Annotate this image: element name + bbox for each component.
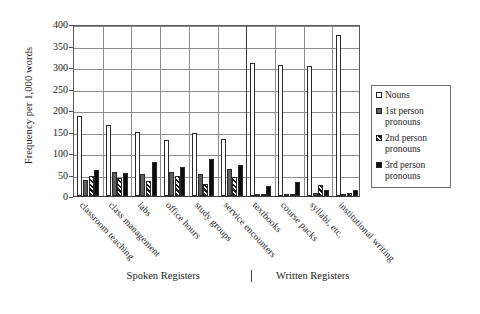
legend-item-3rd-person-pronouns: 3rd person pronouns (376, 160, 447, 182)
bar (278, 65, 283, 196)
bar (290, 194, 295, 196)
bar (341, 194, 346, 196)
bar (209, 159, 214, 196)
legend-item-2nd-person-pronouns: 2nd person pronouns (376, 133, 447, 155)
bar (140, 174, 145, 196)
register-divider (246, 26, 247, 196)
x-axis-label: service encounters (222, 200, 279, 260)
x-axis-label: labs (135, 200, 153, 218)
category-separator-3 (160, 26, 161, 196)
bar (106, 125, 111, 196)
bar (152, 162, 157, 196)
category-separator-8 (304, 26, 305, 196)
gridline-350 (74, 48, 359, 49)
y-tick-mark-250 (69, 90, 73, 91)
legend-label-1st-person-pronouns: 1st person pronouns (385, 106, 447, 128)
bar-group (135, 132, 157, 196)
bar-group (278, 65, 300, 196)
bar (336, 35, 341, 196)
bar (192, 133, 197, 196)
chart-legend: Nouns 1st person pronouns 2nd person pro… (371, 85, 451, 188)
legend-swatch-2nd-person-pronouns (376, 135, 382, 141)
register-caption: Spoken Registers (127, 270, 200, 281)
y-tick-label-300: 300 (38, 63, 68, 73)
category-separator-5 (218, 26, 219, 196)
y-tick-mark-0 (69, 197, 73, 198)
y-tick-mark-50 (69, 176, 73, 177)
legend-item-nouns: Nouns (376, 90, 447, 101)
bar-group (250, 63, 272, 196)
legend-label-nouns: Nouns (385, 90, 410, 101)
bar (146, 181, 151, 196)
legend-swatch-1st-person-pronouns (376, 108, 382, 114)
bar-group (221, 139, 243, 196)
bar (77, 116, 82, 196)
y-tick-mark-100 (69, 154, 73, 155)
bar (123, 173, 128, 196)
bar (295, 182, 300, 196)
legend-label-2nd-person-pronouns: 2nd person pronouns (385, 133, 447, 155)
chart-figure: Frequency per 1,000 words 05010015020025… (0, 0, 480, 314)
y-axis-title: Frequency per 1,000 words (23, 16, 34, 196)
bar (117, 178, 122, 196)
category-separator-2 (131, 26, 132, 196)
bar (353, 190, 358, 196)
y-tick-label-0: 0 (38, 192, 68, 202)
gridline-400 (74, 26, 359, 27)
bar (175, 176, 180, 196)
category-separator-4 (189, 26, 190, 196)
x-axis-label: classroom teaching (78, 200, 136, 262)
bar (250, 63, 255, 196)
bar (266, 186, 271, 196)
category-separator-1 (103, 26, 104, 196)
y-tick-mark-200 (69, 111, 73, 112)
legend-swatch-3rd-person-pronouns (376, 162, 382, 168)
register-caption: Written Registers (276, 270, 349, 281)
bar (313, 193, 318, 196)
y-tick-label-150: 150 (38, 128, 68, 138)
bar (89, 176, 94, 196)
bar (83, 180, 88, 196)
category-separator-9 (332, 26, 333, 196)
y-tick-label-250: 250 (38, 85, 68, 95)
bar (347, 193, 352, 196)
y-tick-mark-400 (69, 25, 73, 26)
bar (324, 190, 329, 196)
bar-group (336, 35, 358, 196)
bar (112, 172, 117, 196)
y-tick-mark-300 (69, 68, 73, 69)
bar (261, 194, 266, 196)
y-tick-mark-350 (69, 47, 73, 48)
bar (255, 194, 260, 196)
bar-group (77, 116, 99, 196)
y-tick-label-100: 100 (38, 149, 68, 159)
bar-group (164, 140, 186, 196)
y-tick-mark-150 (69, 133, 73, 134)
bar (164, 140, 169, 196)
legend-item-1st-person-pronouns: 1st person pronouns (376, 106, 447, 128)
y-tick-label-50: 50 (38, 171, 68, 181)
bar (307, 66, 312, 196)
y-tick-label-400: 400 (38, 20, 68, 30)
bar (94, 170, 99, 196)
x-axis-label: class management (107, 200, 163, 259)
bar (221, 139, 226, 196)
plot-area (73, 25, 360, 197)
bar (227, 169, 232, 196)
register-caption-divider (251, 270, 252, 282)
bar (169, 172, 174, 197)
bar (238, 165, 243, 196)
bar (284, 194, 289, 196)
bar-group (192, 133, 214, 196)
bar-group (106, 125, 128, 196)
bar (318, 185, 323, 196)
legend-label-3rd-person-pronouns: 3rd person pronouns (385, 160, 447, 182)
legend-swatch-nouns (376, 92, 382, 98)
bar (135, 132, 140, 196)
bar (180, 167, 185, 196)
bar (198, 174, 203, 196)
y-tick-label-200: 200 (38, 106, 68, 116)
category-separator-7 (275, 26, 276, 196)
y-tick-label-350: 350 (38, 42, 68, 52)
bar-group (307, 66, 329, 196)
